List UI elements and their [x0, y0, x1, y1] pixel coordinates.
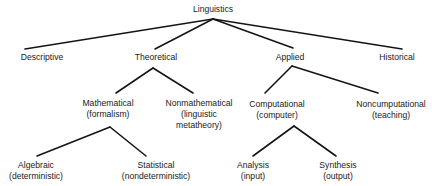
node-descriptive-label: Descriptive [21, 52, 64, 63]
edge-theoretical-nonmathematical [153, 68, 193, 93]
node-analysis-label: Analysis [237, 160, 269, 171]
edge-theoretical-mathematical [116, 68, 153, 93]
tree-edges [0, 0, 432, 186]
edge-mathematical-algebraic [37, 127, 110, 156]
node-computational-label: Computational [249, 99, 304, 110]
node-computational-sublabel: (computer) [249, 110, 304, 121]
node-statistical: Statistical (nondeterministic) [122, 160, 190, 182]
edge-mathematical-statistical [110, 127, 146, 156]
node-algebraic: Algebraic (deterministic) [9, 160, 63, 182]
node-mathematical-sublabel: (formalism) [82, 109, 133, 120]
edge-computational-analysis [253, 126, 294, 156]
node-applied: Applied [276, 52, 305, 63]
node-algebraic-sublabel: (deterministic) [9, 171, 63, 182]
node-nonmathematical-label: Nonmathematical [166, 98, 233, 109]
node-statistical-sublabel: (nondeterministic) [122, 171, 190, 182]
node-mathematical: Mathematical (formalism) [82, 98, 133, 120]
node-computational: Computational (computer) [249, 99, 304, 121]
node-algebraic-label: Algebraic [9, 160, 63, 171]
node-analysis: Analysis (input) [237, 160, 269, 182]
node-descriptive: Descriptive [21, 52, 64, 63]
node-noncomputational-sublabel: (teaching) [356, 110, 425, 121]
node-historical-label: Historical [379, 52, 414, 63]
edge-applied-computational [265, 66, 292, 93]
node-historical: Historical [379, 52, 414, 63]
node-theoretical-label: Theoretical [135, 52, 178, 63]
node-noncomputational: Noncumputational (teaching) [356, 99, 425, 121]
node-synthesis-label: Synthesis [319, 160, 356, 171]
node-synthesis: Synthesis (output) [319, 160, 356, 182]
node-nonmathematical-sublabel-2: metatheory) [166, 120, 233, 131]
node-applied-label: Applied [276, 52, 305, 63]
node-linguistics-label: Linguistics [193, 4, 233, 15]
node-analysis-sublabel: (input) [237, 171, 269, 182]
node-noncomputational-label: Noncumputational [356, 99, 425, 110]
edge-linguistics-historical [213, 19, 402, 49]
edge-computational-synthesis [294, 126, 336, 156]
node-statistical-label: Statistical [122, 160, 190, 171]
node-theoretical: Theoretical [135, 52, 178, 63]
node-mathematical-label: Mathematical [82, 98, 133, 109]
edge-applied-noncomputational [292, 66, 378, 93]
edge-linguistics-applied [213, 19, 293, 48]
node-nonmathematical: Nonmathematical (linguistic metatheory) [166, 98, 233, 131]
node-linguistics: Linguistics [193, 4, 233, 15]
node-synthesis-sublabel: (output) [319, 171, 356, 182]
node-nonmathematical-sublabel-1: (linguistic [166, 109, 233, 120]
